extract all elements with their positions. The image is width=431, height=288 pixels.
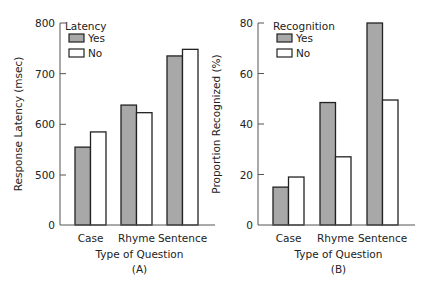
y-tick-label: 700 xyxy=(35,68,55,80)
legend-swatch-no xyxy=(69,49,84,57)
legend-swatch-yes xyxy=(69,34,84,42)
bar-rhyme-no xyxy=(336,157,352,225)
bar-sentence-no xyxy=(383,100,399,225)
figure: CaseRhymeSentence0500600700800Response L… xyxy=(0,0,431,288)
y-axis-title: Proportion Recognized (%) xyxy=(210,54,222,193)
panel-label: (A) xyxy=(132,263,147,275)
legend: RecognitionYesNo xyxy=(273,20,335,59)
y-tick-label: 80 xyxy=(240,17,253,29)
chart-panel-a: CaseRhymeSentence0500600700800Response L… xyxy=(12,17,215,275)
x-axis-title: Type of Question xyxy=(95,248,184,260)
x-tick-label: Sentence xyxy=(158,232,207,244)
bar-rhyme-yes xyxy=(320,103,336,225)
legend-title: Latency xyxy=(65,20,107,32)
y-tick-label: 0 xyxy=(246,219,253,231)
x-tick-label: Rhyme xyxy=(317,232,354,244)
bar-case-no xyxy=(91,132,107,225)
legend: LatencyYesNo xyxy=(65,20,107,59)
y-tick-label: 60 xyxy=(240,68,253,80)
x-tick-label: Sentence xyxy=(358,232,407,244)
panel-label: (B) xyxy=(331,263,346,275)
bar-sentence-no xyxy=(183,49,199,225)
bar-case-yes xyxy=(75,147,91,225)
bar-case-no xyxy=(289,177,305,225)
legend-label: Yes xyxy=(87,32,105,44)
bar-rhyme-no xyxy=(137,113,153,225)
chart-panel-b: CaseRhymeSentence020406080Proportion Rec… xyxy=(210,17,415,275)
x-tick-label: Rhyme xyxy=(118,232,155,244)
y-tick-label: 40 xyxy=(240,118,253,130)
legend-label: Yes xyxy=(295,32,313,44)
y-tick-label: 600 xyxy=(35,118,55,130)
legend-label: No xyxy=(296,47,310,59)
bar-rhyme-yes xyxy=(121,105,137,225)
legend-title: Recognition xyxy=(273,20,335,32)
x-axis-title: Type of Question xyxy=(294,248,383,260)
y-tick-label: 500 xyxy=(35,169,55,181)
y-tick-label: 800 xyxy=(35,17,55,29)
y-axis-title: Response Latency (msec) xyxy=(12,57,24,192)
y-tick-label: 20 xyxy=(240,169,253,181)
legend-swatch-no xyxy=(277,49,292,57)
legend-swatch-yes xyxy=(277,34,292,42)
bar-case-yes xyxy=(273,187,289,225)
bar-sentence-yes xyxy=(167,56,183,225)
x-tick-label: Case xyxy=(78,232,104,244)
y-tick-label: 0 xyxy=(48,219,55,231)
bar-sentence-yes xyxy=(367,23,383,225)
x-tick-label: Case xyxy=(276,232,302,244)
legend-label: No xyxy=(88,47,102,59)
